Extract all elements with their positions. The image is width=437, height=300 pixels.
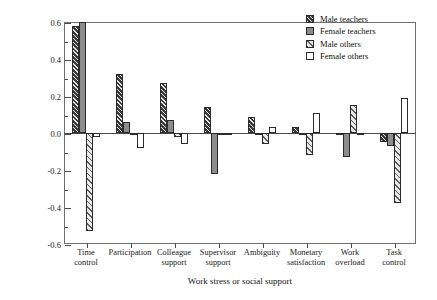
bar [72,26,79,133]
bar-group [248,22,275,244]
bar [292,127,299,133]
bar-group [204,22,231,244]
bar [160,83,167,133]
bar [79,22,86,133]
y-tick-label: 0.2 [50,92,61,102]
bar [336,133,343,135]
bar-group [72,22,99,244]
bar [86,133,93,231]
y-tick [65,245,71,246]
bar [248,117,255,133]
y-tick-label: -0.4 [48,203,61,213]
bar [380,133,387,142]
bar [299,133,306,135]
bar [269,127,276,133]
bar [116,74,123,133]
bar [313,113,320,133]
x-category-label: Task control [365,248,423,267]
legend-label: Male others [320,39,361,49]
legend-item: Male others [306,39,376,48]
bar-group [380,22,407,244]
legend-swatch-female-teachers [306,27,314,35]
bar [306,133,313,155]
bar [401,98,408,133]
legend: Male teachers Female teachers Male other… [306,14,376,64]
bar [123,122,130,133]
y-tick-label: 0.0 [50,129,61,139]
legend-item: Male teachers [306,14,376,23]
bar [350,105,357,133]
bar [181,133,188,144]
bar-group [160,22,187,244]
x-axis-title: Work stress or social support [64,276,416,286]
legend-label: Female others [320,51,368,61]
bar [262,133,269,144]
bar [343,133,350,157]
bar [387,133,394,146]
bar [167,120,174,133]
legend-label: Male teachers [320,14,368,24]
bar-group [116,22,143,244]
legend-item: Female teachers [306,27,376,36]
bar [174,133,181,137]
bar [357,133,364,135]
bar [93,133,100,137]
bar [255,133,262,135]
y-tick-label: 0.4 [50,55,61,65]
bar [211,133,218,174]
legend-swatch-male-others [306,40,314,48]
bar [394,133,401,203]
legend-swatch-female-others [306,52,314,60]
y-tick-label: 0.6 [50,18,61,28]
bar [137,133,144,148]
y-tick-label: -0.2 [48,166,61,176]
figure: Stressor presence or support absence (z-… [0,0,437,300]
legend-label: Female teachers [320,26,376,36]
bar [225,133,232,135]
bar [218,133,225,135]
bar [130,133,137,135]
legend-swatch-male-teachers [306,15,314,23]
bar [204,107,211,133]
legend-item: Female others [306,52,376,61]
